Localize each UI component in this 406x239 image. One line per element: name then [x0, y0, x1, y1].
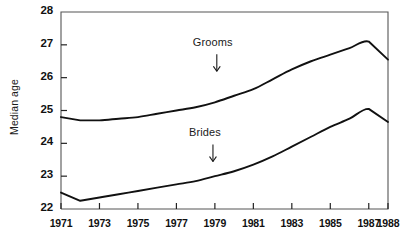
annotation-arrows — [210, 54, 220, 161]
series-line-brides — [61, 109, 388, 201]
y-axis-ticks — [61, 45, 67, 176]
axis-frame — [61, 12, 388, 209]
series-line-grooms — [61, 41, 388, 120]
median-age-line-chart: Median age 22232425262728 19711973197519… — [0, 0, 406, 239]
plot-area — [0, 0, 406, 239]
series-lines — [61, 41, 388, 201]
x-axis-ticks — [61, 203, 388, 209]
